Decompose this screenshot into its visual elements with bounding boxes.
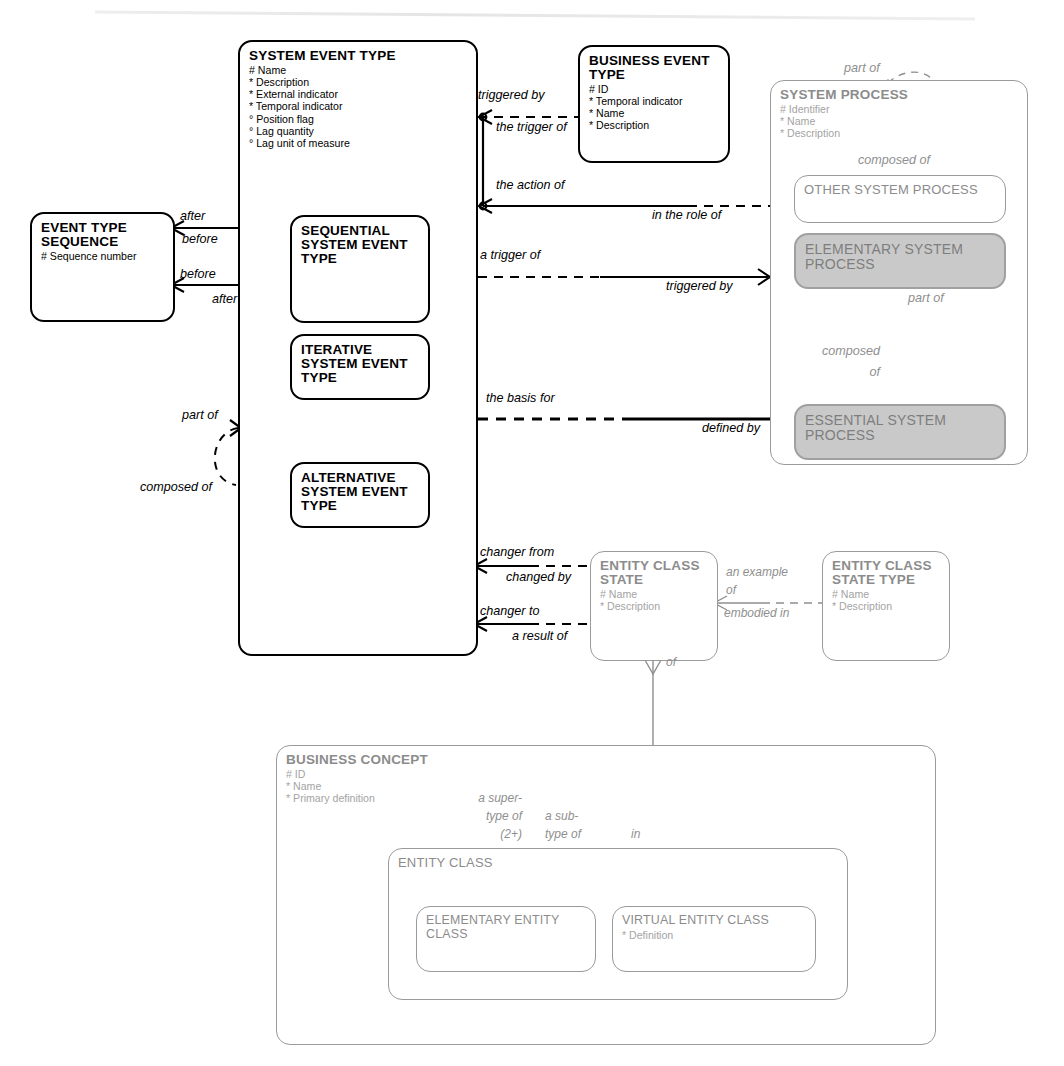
attribute: ° Lag unit of measure [249, 137, 476, 149]
entity-virtual-entity-class[interactable]: VIRTUAL ENTITY CLASS * Definition [612, 906, 816, 972]
entity-event-type-sequence[interactable]: EVENT TYPE SEQUENCE # Sequence number [30, 212, 175, 322]
entity-other-system-process[interactable]: OTHER SYSTEM PROCESS [794, 175, 1006, 223]
attribute: * Description [832, 600, 949, 612]
entity-iterative-system-event-type[interactable]: ITERATIVE SYSTEM EVENT TYPE [290, 334, 430, 400]
attribute: # ID [286, 768, 935, 780]
entity-name: OTHER SYSTEM PROCESS [804, 183, 1005, 197]
entity-name: ELEMENTARY SYSTEM PROCESS [805, 242, 997, 272]
entity-name: ELEMENTARY ENTITY CLASS [426, 914, 576, 942]
attribute: * Name [286, 780, 935, 792]
entity-name: SEQUENTIAL SYSTEM EVENT TYPE [301, 224, 413, 265]
label-triggered-by: triggered by [478, 89, 545, 103]
entity-name: BUSINESS EVENT TYPE [589, 54, 717, 82]
entity-essential-system-process[interactable]: ESSENTIAL SYSTEM PROCESS [794, 404, 1006, 460]
attribute: * Name [589, 107, 728, 119]
label-after-top: after [180, 210, 205, 224]
attribute-list: # Identifier * Name * Description [780, 103, 1027, 140]
attribute: * External indicator [249, 88, 476, 100]
attribute: * Description [249, 76, 476, 88]
entity-name: ALTERNATIVE SYSTEM EVENT TYPE [301, 471, 413, 512]
attribute-list: # Name * Description [600, 588, 717, 612]
entity-name: ITERATIVE SYSTEM EVENT TYPE [301, 343, 413, 384]
entity-name: ENTITY CLASS STATE TYPE [832, 559, 940, 587]
label-defined-by: defined by [702, 422, 760, 436]
label-a-super-type-of-line1: a super- [400, 792, 522, 806]
entity-name: ENTITY CLASS [398, 856, 847, 870]
label-triggered-by-process: triggered by [666, 280, 733, 294]
entity-name: ENTITY CLASS STATE [600, 559, 708, 587]
entity-alternative-system-event-type[interactable]: ALTERNATIVE SYSTEM EVENT TYPE [290, 462, 430, 528]
attribute-list: * Definition [622, 929, 815, 941]
attribute-list: # Name * Description * External indicato… [249, 64, 476, 149]
attribute: # Sequence number [41, 250, 173, 262]
attribute: * Temporal indicator [589, 95, 728, 107]
attribute-list: # Name * Description [832, 588, 949, 612]
entity-name: ESSENTIAL SYSTEM PROCESS [805, 413, 997, 443]
attribute: ° Position flag [249, 113, 476, 125]
label-a-sub-type-of-line2: type of [545, 828, 581, 842]
label-the-trigger-of: the trigger of [496, 121, 567, 135]
label-embodied-in: embodied in [724, 607, 789, 621]
label-composed-of-system-process: composed of [858, 154, 930, 168]
label-in: in [631, 828, 640, 842]
label-a-sub-type-of-line1: a sub- [545, 810, 578, 824]
entity-sequential-system-event-type[interactable]: SEQUENTIAL SYSTEM EVENT TYPE [290, 215, 430, 323]
label-a-result-of: a result of [512, 630, 567, 644]
attribute: # Identifier [780, 103, 1027, 115]
label-part-of-system-process: part of [844, 62, 880, 76]
label-composed-line1: composed [802, 345, 880, 359]
attribute: # Name [249, 64, 476, 76]
attribute: * Primary definition [286, 792, 935, 804]
entity-elementary-system-process[interactable]: ELEMENTARY SYSTEM PROCESS [794, 233, 1006, 289]
diagram-canvas: SYSTEM EVENT TYPE # Name * Description *… [0, 0, 1064, 1066]
label-changer-from: changer from [480, 546, 554, 560]
entity-elementary-entity-class[interactable]: ELEMENTARY ENTITY CLASS [416, 906, 596, 972]
label-changed-by: changed by [506, 571, 571, 585]
label-of-entity-class-state: of [666, 656, 676, 670]
label-before-bottom: before [180, 268, 216, 282]
label-a-super-type-of-line2: type of [400, 810, 522, 824]
label-in-the-role-of: in the role of [652, 209, 721, 223]
label-a-super-type-of-line3: (2+) [400, 828, 522, 842]
label-the-basis-for: the basis for [486, 392, 555, 406]
entity-name: VIRTUAL ENTITY CLASS [622, 914, 815, 928]
attribute: * Description [589, 119, 728, 131]
entity-name: EVENT TYPE SEQUENCE [41, 221, 163, 249]
attribute-list: # Sequence number [41, 250, 173, 262]
attribute: * Description [780, 127, 1027, 139]
attribute: * Definition [622, 929, 815, 941]
entity-entity-class-state-type[interactable]: ENTITY CLASS STATE TYPE # Name * Descrip… [822, 551, 950, 661]
entity-business-event-type[interactable]: BUSINESS EVENT TYPE # ID * Temporal indi… [578, 45, 730, 163]
label-a-trigger-of: a trigger of [480, 249, 540, 263]
label-part-of-set: part of [182, 409, 218, 423]
attribute: # Name [832, 588, 949, 600]
label-an-example-of-line1: an example [726, 566, 788, 580]
attribute: * Name [780, 115, 1027, 127]
entity-name: BUSINESS CONCEPT [286, 753, 935, 767]
entity-entity-class-state[interactable]: ENTITY CLASS STATE # Name * Description [590, 551, 718, 661]
attribute: # Name [600, 588, 717, 600]
label-after-bottom: after [212, 293, 237, 307]
attribute: * Temporal indicator [249, 100, 476, 112]
label-before-top: before [182, 233, 218, 247]
label-an-example-of-line2: of [726, 584, 736, 598]
label-composed-of-set: composed of [140, 481, 212, 495]
attribute-list: # ID * Temporal indicator * Name * Descr… [589, 83, 728, 132]
attribute: # ID [589, 83, 728, 95]
attribute: * Description [600, 600, 717, 612]
entity-name: SYSTEM PROCESS [780, 88, 1027, 102]
entity-name: SYSTEM EVENT TYPE [249, 49, 476, 63]
label-part-of-elementary: part of [908, 292, 944, 306]
label-the-action-of: the action of [496, 179, 565, 193]
label-changer-to: changer to [480, 605, 540, 619]
attribute: ° Lag quantity [249, 125, 476, 137]
attribute-list: # ID * Name * Primary definition [286, 768, 935, 805]
label-composed-line2: of [802, 366, 880, 380]
